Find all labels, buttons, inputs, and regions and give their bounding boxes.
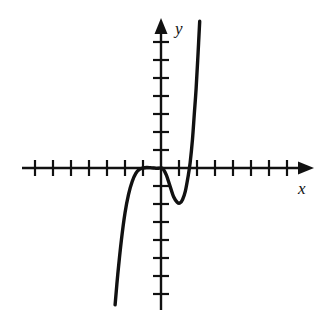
- arrow-right-icon: [298, 162, 314, 175]
- arrow-up-icon: [155, 18, 168, 34]
- coordinate-plane: [0, 0, 324, 328]
- function-curve: [115, 21, 200, 305]
- x-axis-label: x: [298, 180, 306, 197]
- x-axis: [22, 160, 314, 176]
- y-axis-label: y: [175, 20, 183, 37]
- graph-figure: y x: [0, 0, 324, 328]
- y-axis: [153, 18, 169, 310]
